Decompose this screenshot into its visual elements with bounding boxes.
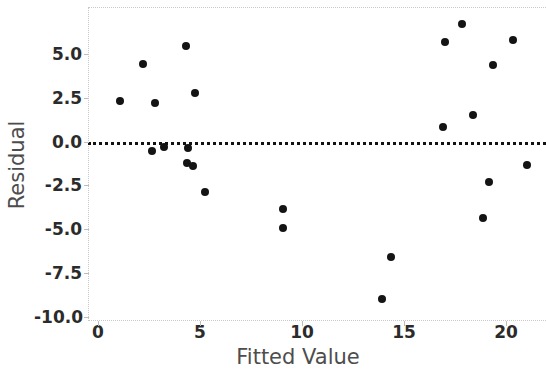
y-axis-tick-mark — [84, 229, 89, 230]
y-axis-tick-label: -7.5 — [34, 264, 82, 281]
data-point — [182, 42, 190, 50]
x-axis-tick-label: 10 — [282, 324, 322, 341]
x-axis-tick-label: 0 — [78, 324, 118, 341]
y-axis-tick-label: -2.5 — [34, 177, 82, 194]
data-point — [441, 38, 449, 46]
zero-reference-line — [88, 142, 546, 145]
data-point — [489, 61, 497, 69]
residual-scatter-plot: Residual 5.02.50.0-2.5-5.0-7.5-10.0 0510… — [0, 0, 546, 381]
y-axis-tick-mark — [84, 98, 89, 99]
x-axis-title: Fitted Value — [88, 345, 508, 369]
x-axis-tick-mark — [98, 321, 99, 326]
y-axis-tick-labels: 5.02.50.0-2.5-5.0-7.5-10.0 — [26, 0, 82, 381]
x-axis-tick-mark — [404, 321, 405, 326]
data-point — [509, 36, 517, 44]
y-axis-tick-label: 2.5 — [34, 89, 82, 106]
y-axis-tick-mark — [84, 142, 89, 143]
y-axis-tick-label: 0.0 — [34, 133, 82, 150]
data-point — [378, 295, 386, 303]
y-axis-tick-label: -10.0 — [34, 308, 82, 325]
data-point — [439, 123, 447, 131]
y-axis-tick-mark — [84, 54, 89, 55]
data-point — [279, 205, 287, 213]
y-axis-tick-label: 5.0 — [34, 45, 82, 62]
data-point — [184, 144, 192, 152]
x-axis-tick-mark — [302, 321, 303, 326]
data-point — [479, 214, 487, 222]
y-axis-tick-mark — [84, 273, 89, 274]
y-axis-tick-mark — [84, 317, 89, 318]
x-axis-tick-mark — [506, 321, 507, 326]
data-point — [387, 253, 395, 261]
plot-area — [88, 7, 546, 321]
data-point — [279, 224, 287, 232]
x-axis-tick-mark — [200, 321, 201, 326]
x-axis-tick-label: 20 — [486, 324, 526, 341]
data-point — [485, 178, 493, 186]
x-axis-tick-label: 15 — [384, 324, 424, 341]
y-axis-tick-label: -5.0 — [34, 221, 82, 238]
y-axis-tick-mark — [84, 185, 89, 186]
x-axis-tick-label: 5 — [180, 324, 220, 341]
data-point — [189, 162, 197, 170]
